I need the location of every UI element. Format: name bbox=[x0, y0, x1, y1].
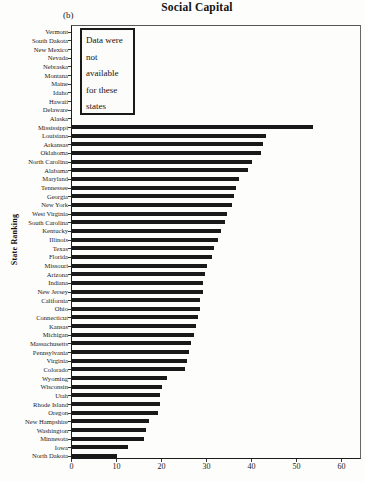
y-axis-tick bbox=[68, 248, 71, 249]
bar bbox=[72, 281, 203, 285]
state-label: Minnesota bbox=[40, 435, 68, 442]
state-label: Tennessee bbox=[41, 184, 68, 191]
y-axis-tick bbox=[68, 179, 71, 180]
state-label: Illinois bbox=[49, 236, 68, 243]
bar bbox=[72, 298, 200, 302]
bar bbox=[72, 350, 189, 354]
y-axis-tick bbox=[68, 162, 71, 163]
bar bbox=[72, 393, 160, 397]
state-label: Nevada bbox=[48, 54, 68, 61]
y-axis-tick bbox=[68, 214, 71, 215]
x-axis-tick-label: 30 bbox=[197, 462, 217, 471]
bar bbox=[72, 220, 225, 224]
state-label: Indiana bbox=[48, 279, 68, 286]
state-label: Georgia bbox=[47, 193, 68, 200]
y-axis-tick bbox=[68, 257, 71, 258]
y-axis-tick bbox=[68, 144, 71, 145]
state-label: Delaware bbox=[43, 106, 68, 113]
y-axis-tick bbox=[68, 240, 71, 241]
bar bbox=[72, 177, 239, 181]
bar bbox=[72, 333, 194, 337]
state-label: Texas bbox=[53, 245, 68, 252]
no-data-note-text: available bbox=[86, 65, 133, 82]
bar bbox=[72, 212, 227, 216]
x-axis-tick-label: 50 bbox=[287, 462, 307, 471]
no-data-note-text: not bbox=[86, 49, 133, 66]
y-axis-tick bbox=[68, 32, 71, 33]
y-axis-tick bbox=[68, 326, 71, 327]
y-axis-tick bbox=[68, 387, 71, 388]
y-axis-tick bbox=[68, 352, 71, 353]
bar bbox=[72, 142, 263, 146]
bar bbox=[72, 402, 160, 406]
state-label: Ohio bbox=[55, 305, 68, 312]
state-label: Massachusetts bbox=[30, 340, 68, 347]
y-axis-tick bbox=[68, 196, 71, 197]
state-label: North Dakota bbox=[32, 452, 68, 459]
bar bbox=[72, 134, 266, 138]
state-label: Connecticut bbox=[36, 314, 68, 321]
bar bbox=[72, 376, 167, 380]
bar bbox=[72, 428, 146, 432]
y-axis-tick bbox=[68, 283, 71, 284]
state-label: Idaho bbox=[53, 89, 68, 96]
bar bbox=[72, 125, 313, 129]
state-label: Rhode Island bbox=[33, 401, 68, 408]
y-axis-tick bbox=[68, 205, 71, 206]
bar bbox=[72, 315, 198, 319]
bar bbox=[72, 229, 221, 233]
state-label: Alaska bbox=[50, 115, 68, 122]
y-axis-tick bbox=[68, 413, 71, 414]
state-label: Missouri bbox=[45, 262, 68, 269]
state-label: Florida bbox=[49, 253, 68, 260]
y-axis-tick bbox=[68, 110, 71, 111]
bar bbox=[72, 385, 162, 389]
state-label: Iowa bbox=[55, 444, 68, 451]
state-label: Maryland bbox=[42, 175, 68, 182]
y-axis-tick bbox=[68, 188, 71, 189]
x-axis-tick-label: 40 bbox=[242, 462, 262, 471]
bar bbox=[72, 160, 252, 164]
y-axis-tick bbox=[68, 127, 71, 128]
y-axis-tick bbox=[68, 343, 71, 344]
y-axis-tick bbox=[68, 101, 71, 102]
y-axis-tick bbox=[68, 404, 71, 405]
state-label: New York bbox=[41, 201, 68, 208]
y-axis-tick bbox=[68, 92, 71, 93]
y-axis-tick bbox=[68, 447, 71, 448]
state-label: Arizona bbox=[47, 271, 68, 278]
state-label: Montana bbox=[45, 72, 68, 79]
y-axis-tick bbox=[68, 309, 71, 310]
bar bbox=[72, 419, 149, 423]
state-label: West Virginia bbox=[32, 210, 68, 217]
y-axis-tick bbox=[68, 335, 71, 336]
no-data-note-text: states bbox=[86, 98, 133, 115]
state-label: South Dakota bbox=[32, 37, 68, 44]
state-label: Michigan bbox=[43, 331, 68, 338]
state-label: New Hampshire bbox=[25, 418, 68, 425]
bar bbox=[72, 203, 232, 207]
state-label: Maine bbox=[51, 80, 68, 87]
state-label: North Carolina bbox=[28, 158, 68, 165]
bar bbox=[72, 324, 196, 328]
y-axis-title: State Ranking bbox=[10, 209, 19, 271]
state-label: Utah bbox=[55, 392, 68, 399]
y-axis-tick bbox=[68, 378, 71, 379]
chart-figure: Social Capital (b) State Ranking Vermont… bbox=[0, 0, 365, 482]
state-label: New Mexico bbox=[34, 46, 68, 53]
x-axis-tick-label: 0 bbox=[62, 462, 82, 471]
bar bbox=[72, 437, 144, 441]
bar bbox=[72, 341, 191, 345]
y-axis-tick bbox=[68, 75, 71, 76]
no-data-note-text: Data were bbox=[86, 32, 133, 49]
y-axis-tick bbox=[68, 66, 71, 67]
y-axis-tick bbox=[68, 317, 71, 318]
bar bbox=[72, 367, 185, 371]
bar bbox=[72, 411, 158, 415]
bar bbox=[72, 238, 218, 242]
state-label: Alabama bbox=[44, 167, 68, 174]
subfigure-label: (b) bbox=[63, 10, 74, 20]
state-label: Virginia bbox=[47, 357, 68, 364]
y-axis-tick bbox=[68, 456, 71, 457]
y-axis-tick bbox=[68, 170, 71, 171]
